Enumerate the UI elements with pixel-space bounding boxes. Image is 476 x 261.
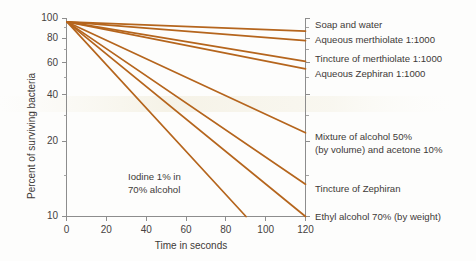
series-label-tincture-zephiran: Tincture of Zephiran xyxy=(315,183,401,195)
scan-artifact-band xyxy=(0,96,476,112)
chart-figure: 100 80 60 40 20 10 0 20 40 60 80 100 120… xyxy=(0,0,476,261)
x-axis-title: Time in seconds xyxy=(136,240,246,251)
x-tick-label-100: 100 xyxy=(252,224,280,235)
y-axis-ticks xyxy=(62,19,67,217)
x-axis-ticks xyxy=(67,217,306,222)
x-tick-label-80: 80 xyxy=(212,224,240,235)
x-tick-label-40: 40 xyxy=(132,224,160,235)
y-axis-title: Percent of surviving bacteria xyxy=(26,73,37,199)
series-lines xyxy=(67,22,306,217)
x-tick-label-120: 120 xyxy=(292,224,320,235)
series-label-soap-and-water: Soap and water xyxy=(315,19,382,31)
annotation-iodine-line1: Iodine 1% in xyxy=(128,170,181,183)
series-line-tincture-merthiolate xyxy=(67,22,306,61)
y-tick-label-100: 100 xyxy=(32,12,58,23)
x-tick-label-60: 60 xyxy=(172,224,200,235)
x-tick-label-0: 0 xyxy=(53,224,81,235)
series-label-alcohol-acetone-mixture-line2: (by volume) and acetone 10% xyxy=(315,144,442,156)
y-tick-label-60: 60 xyxy=(32,57,58,68)
right-axis-ticks xyxy=(306,19,311,217)
series-label-tincture-merthiolate: Tincture of merthiolate 1:1000 xyxy=(315,53,442,65)
series-label-ethyl-alcohol: Ethyl alcohol 70% (by weight) xyxy=(315,211,441,223)
y-tick-label-10: 10 xyxy=(32,210,58,221)
series-line-ethyl-alcohol xyxy=(67,22,306,217)
series-label-alcohol-acetone-mixture-line1: Mixture of alcohol 50% xyxy=(315,131,412,143)
series-label-aqueous-zephiran: Aqueous Zephiran 1:1000 xyxy=(315,68,425,80)
series-label-aqueous-merthiolate: Aqueous merthiolate 1:1000 xyxy=(315,34,435,46)
x-tick-label-20: 20 xyxy=(92,224,120,235)
annotation-iodine-line2: 70% alcohol xyxy=(128,183,180,196)
y-tick-label-80: 80 xyxy=(32,32,58,43)
